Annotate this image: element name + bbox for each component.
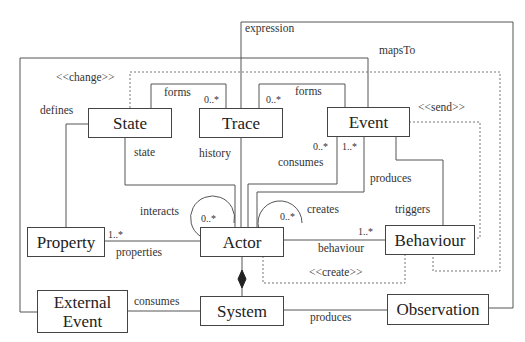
label-defines: defines — [40, 104, 73, 116]
label-produces-observation: produces — [310, 311, 352, 323]
class-trace[interactable]: Trace — [199, 108, 283, 138]
mult-properties: 1..* — [108, 229, 123, 240]
class-state[interactable]: State — [88, 108, 172, 138]
label-maps-to: mapsTo — [379, 44, 415, 56]
label-state: state — [134, 146, 155, 158]
label-produces-event: produces — [370, 172, 412, 184]
defines-edge — [66, 124, 88, 227]
label-properties: properties — [116, 246, 162, 258]
class-event[interactable]: Event — [327, 107, 410, 137]
mult-consumes: 0..* — [313, 141, 328, 152]
class-actor[interactable]: Actor — [200, 227, 284, 257]
class-external-event[interactable]: External Event — [37, 290, 128, 333]
class-behaviour[interactable]: Behaviour — [385, 225, 475, 255]
label-consumes-external: consumes — [134, 295, 179, 307]
mult-behaviour: 1..* — [358, 226, 373, 237]
label-forms-state-trace: forms — [164, 86, 191, 98]
label-behaviour: behaviour — [318, 242, 364, 254]
label-consumes-event: consumes — [278, 156, 323, 168]
label-forms-trace-event: forms — [295, 85, 322, 97]
mult-creates: 0..* — [280, 211, 295, 222]
mult-forms-trace: 0..* — [266, 94, 281, 105]
send-edge — [409, 122, 480, 238]
class-observation[interactable]: Observation — [387, 294, 489, 325]
label-create: <<create>> — [309, 266, 362, 278]
label-interacts: interacts — [140, 205, 179, 217]
class-system[interactable]: System — [200, 296, 284, 326]
label-change: <<change>> — [56, 71, 115, 83]
composition-diamond-icon — [238, 270, 246, 288]
label-creates: creates — [307, 203, 339, 215]
mult-produces: 1..* — [342, 141, 357, 152]
mult-forms-state: 0..* — [204, 94, 219, 105]
label-expression: expression — [245, 22, 294, 34]
label-history: history — [199, 147, 231, 159]
class-property[interactable]: Property — [27, 227, 105, 257]
mult-interacts: 0..* — [201, 213, 216, 224]
label-triggers: triggers — [395, 203, 430, 215]
label-send: <<send>> — [418, 101, 465, 113]
